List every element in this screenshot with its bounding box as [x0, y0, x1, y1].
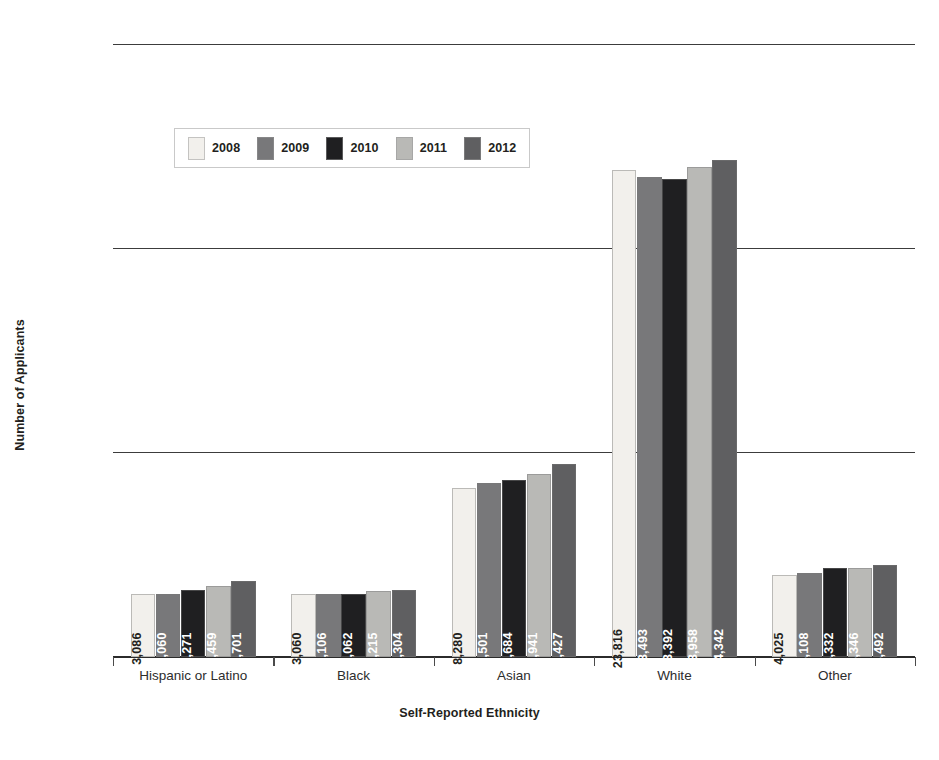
- bar[interactable]: 3,106: [316, 594, 341, 657]
- bar-slot: 9,427: [552, 44, 577, 657]
- legend-label: 2010: [350, 141, 378, 155]
- legend-item[interactable]: 2010: [326, 137, 378, 160]
- category-label: Other: [725, 668, 939, 683]
- bar-value-label: 4,346: [847, 632, 860, 664]
- bar[interactable]: 4,492: [873, 565, 898, 657]
- bar[interactable]: 3,304: [392, 590, 417, 658]
- bar-value-label: 3,271: [181, 632, 194, 664]
- bar-value-label: 8,941: [527, 632, 540, 664]
- bar-value-label: 3,086: [131, 632, 144, 664]
- bar[interactable]: 8,684: [502, 480, 527, 657]
- category-tick: [755, 657, 756, 666]
- bar-slot: 24,342: [712, 44, 737, 657]
- x-axis-title: Self-Reported Ethnicity: [0, 706, 939, 720]
- bar-value-label: 8,684: [501, 632, 514, 664]
- bar[interactable]: 23,392: [662, 179, 687, 657]
- bar[interactable]: 4,108: [797, 573, 822, 657]
- bar[interactable]: 23,816: [612, 170, 637, 657]
- category-tick: [434, 657, 435, 666]
- bar-slot: 23,816: [612, 44, 637, 657]
- bar-slot: 4,492: [873, 44, 898, 657]
- legend-swatch-icon: [188, 137, 205, 160]
- bar-value-label: 4,332: [822, 632, 835, 664]
- bar-value-label: 24,342: [712, 628, 725, 667]
- bar[interactable]: 4,346: [848, 568, 873, 657]
- legend-item[interactable]: 2011: [396, 137, 448, 160]
- bar-value-label: 23,958: [687, 628, 700, 667]
- bar[interactable]: 3,701: [231, 581, 256, 657]
- bar[interactable]: 8,941: [527, 474, 552, 657]
- bar-value-label: 3,459: [206, 632, 219, 664]
- bar-chart-figure: Number of Applicants 3,0863,0603,2713,45…: [0, 0, 939, 760]
- legend-label: 2012: [488, 141, 516, 155]
- bar[interactable]: 3,215: [366, 591, 391, 657]
- legend-label: 2011: [420, 141, 448, 155]
- bar-value-label: 8,280: [451, 632, 464, 664]
- bar-slot: 23,493: [637, 44, 662, 657]
- bar-group: 4,0254,1084,3324,3464,492: [772, 44, 897, 657]
- legend-label: 2008: [212, 141, 240, 155]
- bar-slot: 8,941: [527, 44, 552, 657]
- legend-item[interactable]: 2009: [257, 137, 309, 160]
- bar-slot: 3,086: [131, 44, 156, 657]
- legend-swatch-icon: [464, 137, 481, 160]
- bar[interactable]: 8,280: [452, 488, 477, 657]
- bar[interactable]: 24,342: [712, 160, 737, 657]
- bar-value-label: 23,392: [662, 628, 675, 667]
- legend-item[interactable]: 2008: [188, 137, 240, 160]
- bar[interactable]: 9,427: [552, 464, 577, 657]
- bar-slot: 4,025: [772, 44, 797, 657]
- bar[interactable]: 3,060: [156, 594, 181, 657]
- bar-slot: 23,392: [662, 44, 687, 657]
- legend-item[interactable]: 2012: [464, 137, 516, 160]
- category-tick: [113, 657, 114, 666]
- bar[interactable]: 23,493: [637, 177, 662, 657]
- bar[interactable]: 3,459: [206, 586, 231, 657]
- bar-slot: 4,346: [848, 44, 873, 657]
- bar-group: 23,81623,49323,39223,95824,342: [612, 44, 737, 657]
- legend-swatch-icon: [257, 137, 274, 160]
- bar-slot: 23,958: [687, 44, 712, 657]
- legend-label: 2009: [281, 141, 309, 155]
- bar-value-label: 4,108: [797, 632, 810, 664]
- category-tick: [594, 657, 595, 666]
- bar[interactable]: 4,332: [823, 568, 848, 657]
- legend-swatch-icon: [396, 137, 413, 160]
- legend-swatch-icon: [326, 137, 343, 160]
- bar[interactable]: 23,958: [687, 167, 712, 657]
- y-axis-title: Number of Applicants: [13, 270, 27, 500]
- category-tick: [915, 657, 916, 666]
- bar[interactable]: 8,501: [477, 483, 502, 657]
- bar-value-label: 9,427: [552, 632, 565, 664]
- bar-value-label: 3,701: [231, 632, 244, 664]
- bar-value-label: 23,816: [612, 628, 625, 667]
- bar[interactable]: 3,271: [181, 590, 206, 657]
- chart-legend: 20082009201020112012: [174, 128, 530, 168]
- bar-value-label: 3,060: [291, 632, 304, 664]
- bar-slot: 4,108: [797, 44, 822, 657]
- bar-value-label: 3,106: [316, 632, 329, 664]
- bar[interactable]: 3,086: [131, 594, 156, 657]
- bar-value-label: 3,304: [391, 632, 404, 664]
- bar-value-label: 3,060: [156, 632, 169, 664]
- bar[interactable]: 3,060: [291, 594, 316, 657]
- bar-value-label: 3,062: [341, 632, 354, 664]
- bar-slot: 4,332: [823, 44, 848, 657]
- bar[interactable]: 3,062: [341, 594, 366, 657]
- bar-value-label: 3,215: [366, 632, 379, 664]
- bar-value-label: 8,501: [476, 632, 489, 664]
- bar-value-label: 4,025: [772, 632, 785, 664]
- bar-value-label: 4,492: [872, 632, 885, 664]
- bar-value-label: 23,493: [637, 628, 650, 667]
- category-tick: [273, 657, 274, 666]
- bar[interactable]: 4,025: [772, 575, 797, 657]
